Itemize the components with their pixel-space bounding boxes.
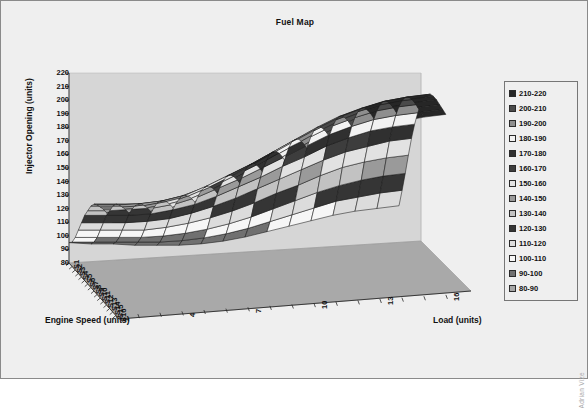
legend-label: 210-220 bbox=[519, 89, 547, 98]
legend-item[interactable]: 130-140 bbox=[509, 206, 574, 221]
value-axis-tick: 180 bbox=[39, 122, 69, 131]
value-axis-tick: 210 bbox=[39, 82, 69, 91]
value-axis-tick: 90 bbox=[39, 244, 69, 253]
legend-item[interactable]: 140-150 bbox=[509, 191, 574, 206]
legend-swatch bbox=[509, 195, 516, 202]
legend-label: 110-120 bbox=[519, 239, 546, 248]
legend-swatch bbox=[509, 270, 516, 277]
legend-item[interactable]: 80-90 bbox=[509, 281, 574, 296]
surface-facet bbox=[78, 223, 103, 230]
surface-facet bbox=[380, 173, 405, 193]
surface-facet bbox=[104, 215, 129, 222]
legend-label: 200-210 bbox=[519, 104, 547, 113]
surface-facet bbox=[75, 230, 100, 237]
legend-swatch bbox=[509, 210, 516, 217]
legend-item[interactable]: 210-220 bbox=[509, 86, 574, 101]
legend-label: 140-150 bbox=[519, 194, 547, 203]
legend-item[interactable]: 110-120 bbox=[509, 236, 574, 251]
value-axis-tick: 170 bbox=[39, 136, 69, 145]
series-axis-tick: 7 bbox=[254, 309, 263, 313]
legend-item[interactable]: 200-210 bbox=[509, 101, 574, 116]
legend-item[interactable]: 100-110 bbox=[509, 251, 574, 266]
legend-item[interactable]: 160-170 bbox=[509, 161, 574, 176]
surface-facet bbox=[119, 230, 144, 237]
surface-facet bbox=[82, 215, 107, 222]
legend-swatch bbox=[509, 255, 516, 262]
surface-facet bbox=[135, 242, 160, 245]
series-axis-tick: 10 bbox=[320, 301, 329, 309]
legend-swatch bbox=[509, 180, 516, 187]
value-axis-title: Injector Opening (units) bbox=[24, 46, 34, 206]
value-axis-tick: 120 bbox=[39, 204, 69, 213]
series-axis-tick-mark bbox=[380, 299, 382, 303]
surface-facet bbox=[383, 155, 408, 176]
legend-swatch bbox=[509, 120, 516, 127]
surface-facet bbox=[97, 230, 122, 237]
series-axis-tick-mark bbox=[336, 302, 338, 306]
value-axis-tick: 150 bbox=[39, 163, 69, 172]
surface-facet bbox=[116, 237, 141, 242]
series-axis-tick-mark bbox=[358, 300, 360, 304]
series-axis-tick-mark bbox=[424, 296, 426, 300]
legend-label: 150-160 bbox=[519, 179, 547, 188]
legend-swatch bbox=[509, 285, 516, 292]
value-axis-tick: 80 bbox=[39, 258, 69, 267]
legend-label: 180-190 bbox=[519, 134, 547, 143]
legend-label: 190-200 bbox=[519, 119, 547, 128]
legend-label: 90-100 bbox=[519, 269, 542, 278]
legend-item[interactable]: 150-160 bbox=[509, 176, 574, 191]
surface-facet bbox=[94, 237, 119, 242]
series-axis-tick: 16 bbox=[452, 293, 461, 301]
value-axis-tick: 110 bbox=[39, 217, 69, 226]
legend-label: 80-90 bbox=[519, 284, 538, 293]
series-axis-tick: 4 bbox=[188, 313, 197, 317]
category-axis-tick: S1 bbox=[72, 260, 81, 269]
value-axis-tick: 100 bbox=[39, 231, 69, 240]
chart-title: Fuel Map bbox=[1, 17, 588, 27]
legend-item[interactable]: 90-100 bbox=[509, 266, 574, 281]
value-axis-tick: 130 bbox=[39, 190, 69, 199]
legend-swatch bbox=[509, 165, 516, 172]
legend-swatch bbox=[509, 105, 516, 112]
surface-facet bbox=[386, 138, 411, 158]
legend-swatch bbox=[509, 90, 516, 97]
legend-label: 100-110 bbox=[519, 254, 546, 263]
surface-facet bbox=[91, 242, 116, 244]
surface-facet bbox=[100, 223, 125, 230]
legend-item[interactable]: 120-130 bbox=[509, 221, 574, 236]
legend-item[interactable]: 190-200 bbox=[509, 116, 574, 131]
series-axis-title: Load (units) bbox=[433, 315, 482, 325]
legend-label: 170-180 bbox=[519, 149, 547, 158]
series-axis-tick-mark bbox=[446, 295, 448, 299]
chart-plot-area[interactable]: Fuel Map Injector Opening (units) 220210… bbox=[1, 1, 588, 380]
legend-swatch bbox=[509, 150, 516, 157]
surface-facet bbox=[72, 237, 97, 242]
legend-item[interactable]: 170-180 bbox=[509, 146, 574, 161]
series-axis-tick: 1 bbox=[122, 317, 131, 321]
legend-swatch bbox=[509, 225, 516, 232]
watermark-text: Adrian Vize bbox=[578, 372, 585, 408]
series-axis-tick: 13 bbox=[386, 297, 395, 305]
legend-label: 130-140 bbox=[519, 209, 547, 218]
legend-label: 120-130 bbox=[519, 224, 547, 233]
legend-label: 160-170 bbox=[519, 164, 547, 173]
value-axis-tick: 200 bbox=[39, 95, 69, 104]
value-axis-tick: 160 bbox=[39, 149, 69, 158]
series-axis-tick-mark bbox=[402, 298, 404, 302]
legend-swatch bbox=[509, 135, 516, 142]
value-axis-tick: 140 bbox=[39, 177, 69, 186]
value-axis-tick: 190 bbox=[39, 109, 69, 118]
legend-item[interactable]: 180-190 bbox=[509, 131, 574, 146]
chart-legend[interactable]: 210-220200-210190-200180-190170-180160-1… bbox=[504, 81, 578, 301]
value-axis-tick: 220 bbox=[39, 68, 69, 77]
legend-swatch bbox=[509, 240, 516, 247]
